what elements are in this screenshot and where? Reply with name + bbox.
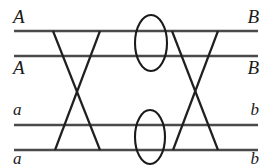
allele-label-right-bottom: b: [251, 150, 260, 167]
allele-label-right-top: B: [247, 7, 259, 26]
centromere-lower: [135, 110, 165, 164]
chiasma-left-group: [53, 31, 100, 150]
diagram-canvas: [0, 0, 272, 167]
chromosome-crossing-over-diagram: A A a a B B b b: [0, 0, 272, 167]
chiasma-right-group: [172, 31, 218, 150]
allele-label-right-second: B: [247, 58, 259, 77]
allele-label-right-third: b: [251, 101, 260, 118]
allele-label-left-second: A: [13, 58, 25, 77]
centromere-group: [135, 15, 167, 164]
centromere-upper: [135, 15, 167, 71]
allele-label-left-bottom: a: [13, 150, 22, 167]
allele-label-left-top: A: [13, 7, 25, 26]
allele-label-left-third: a: [13, 101, 22, 118]
